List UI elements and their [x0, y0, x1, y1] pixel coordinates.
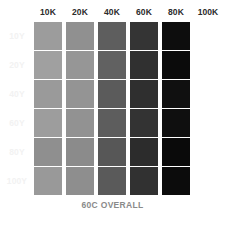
swatch-40k-20y — [98, 51, 126, 79]
swatch-80k-40y — [162, 80, 190, 108]
swatch-row — [34, 167, 222, 195]
swatch-80k-10y — [162, 22, 190, 50]
row-label-40y: 40Y — [2, 80, 32, 108]
chart-caption: 60C OVERALL — [0, 200, 225, 210]
swatch-60k-60y — [130, 109, 158, 137]
swatch-10k-40y — [34, 80, 62, 108]
swatch-100k-40y — [194, 80, 222, 108]
row-label-10y: 10Y — [2, 22, 32, 50]
swatch-60k-100y — [130, 167, 158, 195]
swatch-10k-20y — [34, 51, 62, 79]
swatch-row — [34, 22, 222, 50]
swatch-40k-80y — [98, 138, 126, 166]
swatch-100k-100y — [194, 167, 222, 195]
column-header-40k: 40K — [98, 5, 126, 19]
swatch-row — [34, 138, 222, 166]
swatch-80k-100y — [162, 167, 190, 195]
row-label-column: 10Y20Y40Y60Y80Y100Y — [2, 22, 32, 195]
swatch-80k-60y — [162, 109, 190, 137]
swatch-100k-20y — [194, 51, 222, 79]
row-label-60y: 60Y — [2, 109, 32, 137]
swatch-row — [34, 109, 222, 137]
row-label-20y: 20Y — [2, 51, 32, 79]
swatch-20k-100y — [66, 167, 94, 195]
swatch-40k-40y — [98, 80, 126, 108]
column-header-60k: 60K — [130, 5, 158, 19]
swatch-10k-80y — [34, 138, 62, 166]
swatch-20k-60y — [66, 109, 94, 137]
column-header-80k: 80K — [162, 5, 190, 19]
swatch-grid — [34, 22, 222, 195]
swatch-row — [34, 51, 222, 79]
row-label-100y: 100Y — [2, 167, 32, 195]
swatch-40k-100y — [98, 167, 126, 195]
swatch-40k-10y — [98, 22, 126, 50]
swatch-100k-80y — [194, 138, 222, 166]
swatch-80k-80y — [162, 138, 190, 166]
swatch-20k-10y — [66, 22, 94, 50]
swatch-10k-100y — [34, 167, 62, 195]
column-header-10k: 10K — [34, 5, 62, 19]
column-header-100k: 100K — [194, 5, 222, 19]
swatch-60k-80y — [130, 138, 158, 166]
ink-density-chart: 10K20K40K60K80K100K 10Y20Y40Y60Y80Y100Y … — [0, 0, 225, 225]
swatch-row — [34, 80, 222, 108]
swatch-40k-60y — [98, 109, 126, 137]
swatch-100k-10y — [194, 22, 222, 50]
swatch-10k-60y — [34, 109, 62, 137]
swatch-60k-10y — [130, 22, 158, 50]
swatch-20k-20y — [66, 51, 94, 79]
column-header-20k: 20K — [66, 5, 94, 19]
swatch-100k-60y — [194, 109, 222, 137]
row-label-80y: 80Y — [2, 138, 32, 166]
swatch-60k-20y — [130, 51, 158, 79]
swatch-60k-40y — [130, 80, 158, 108]
swatch-80k-20y — [162, 51, 190, 79]
swatch-20k-80y — [66, 138, 94, 166]
column-header-row: 10K20K40K60K80K100K — [34, 5, 222, 19]
swatch-20k-40y — [66, 80, 94, 108]
swatch-10k-10y — [34, 22, 62, 50]
